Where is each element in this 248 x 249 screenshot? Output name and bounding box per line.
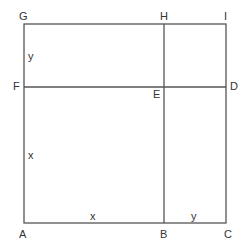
point-label-G: G bbox=[19, 11, 28, 22]
point-label-D: D bbox=[230, 81, 238, 92]
outer-square-AGIC bbox=[24, 24, 226, 223]
square-diagram bbox=[0, 0, 248, 249]
point-label-A: A bbox=[19, 229, 26, 240]
segment-label-BC: y bbox=[191, 211, 197, 222]
point-label-H: H bbox=[160, 11, 168, 22]
point-label-C: C bbox=[224, 229, 232, 240]
point-label-E: E bbox=[153, 89, 160, 100]
point-label-B: B bbox=[160, 229, 167, 240]
segment-label-AB: x bbox=[90, 211, 96, 222]
segment-label-FG: y bbox=[28, 51, 34, 62]
segment-label-AF: x bbox=[28, 150, 34, 161]
point-label-F: F bbox=[13, 81, 20, 92]
point-label-I: I bbox=[224, 11, 227, 22]
